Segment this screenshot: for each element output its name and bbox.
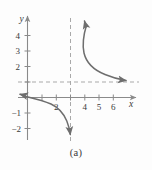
x-tick-label-4: 4 xyxy=(83,102,88,112)
y-tick-label-3: 3 xyxy=(16,46,21,56)
x-axis-label: x xyxy=(128,99,134,109)
x-tick-label-6: 6 xyxy=(111,102,116,112)
y-tick-label-2: 2 xyxy=(16,62,21,72)
curve-left-branch-start-arrow xyxy=(20,94,24,95)
curve-right-branch xyxy=(83,25,126,81)
figure-caption: (a) xyxy=(0,147,152,158)
y-axis-label: y xyxy=(18,14,24,24)
x-tick-label-5: 5 xyxy=(97,102,102,112)
y-tick-label-4: 4 xyxy=(16,31,21,41)
curve-right-branch-start-arrow xyxy=(85,21,87,27)
y-tick-label-minus-1: −1 xyxy=(11,108,21,118)
figure-panel: 2 4 5 6 4 3 2 −1 −2 x y (a) xyxy=(0,0,152,170)
function-graph: 2 4 5 6 4 3 2 −1 −2 x y xyxy=(0,0,152,152)
y-tick-label-minus-2: −2 xyxy=(11,124,21,134)
